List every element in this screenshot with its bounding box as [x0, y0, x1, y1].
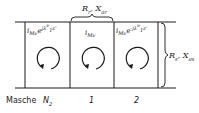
stator-impedance-label: Rs, Xσs: [169, 52, 194, 60]
mesh-n2-label: N2: [43, 96, 52, 105]
rotor-impedance-label: Rr, Xσr: [82, 5, 107, 13]
top-brace-icon: [71, 14, 113, 21]
mesh-current-arrow-icon: [126, 47, 148, 69]
right-brace-icon: [161, 23, 168, 87]
mesh-1-label: 1: [89, 96, 94, 105]
mesh-2-label: 2: [134, 96, 139, 105]
mesh-current-label-n2: iMνejλν1ε': [27, 25, 57, 35]
masche-label: Masche: [6, 96, 36, 105]
mesh-current-arrow-icon: [82, 47, 104, 69]
mesh-current-label-1: iMν: [85, 30, 95, 37]
mesh-current-arrow-icon: [37, 47, 59, 69]
mesh-current-label-2: iMνe-jλν1ε': [116, 25, 147, 35]
